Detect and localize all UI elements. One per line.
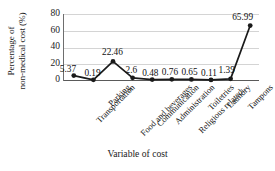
data-point-label: 2.6 bbox=[126, 66, 138, 75]
data-point-marker bbox=[130, 75, 135, 80]
data-point-label: 0.11 bbox=[201, 69, 217, 78]
data-point-label: 65.99 bbox=[232, 13, 253, 22]
data-point-marker bbox=[91, 77, 96, 82]
y-tick-label: 20 bbox=[38, 59, 60, 69]
y-tick-label: 60 bbox=[38, 26, 60, 36]
y-axis-title-line-2: non-medical cost (%) bbox=[17, 0, 28, 106]
chart-container: Percentage of non-medical cost (%) 80604… bbox=[0, 0, 275, 171]
y-axis-title: Percentage of non-medical cost (%) bbox=[6, 0, 32, 106]
data-point-label: 0.76 bbox=[162, 68, 178, 77]
y-tick-label: 80 bbox=[38, 9, 60, 19]
x-axis-title: Variable of cost bbox=[0, 148, 275, 159]
y-tick-label: 40 bbox=[38, 42, 60, 52]
data-point-label: 0.65 bbox=[181, 68, 197, 77]
y-axis-ticks: 806040200 bbox=[38, 0, 60, 171]
data-point-marker bbox=[189, 77, 194, 82]
y-tick-label: 0 bbox=[38, 75, 60, 85]
data-point-marker bbox=[228, 76, 233, 81]
data-point-label: 0.19 bbox=[84, 69, 100, 78]
data-point-marker bbox=[71, 73, 76, 78]
data-point-label: 22.46 bbox=[102, 48, 123, 57]
data-point-marker bbox=[150, 77, 155, 82]
y-axis-title-line-1: Percentage of bbox=[6, 0, 17, 106]
data-point-marker bbox=[248, 23, 253, 28]
data-point-label: 1.39 bbox=[219, 66, 235, 75]
data-point-label: 0.48 bbox=[142, 69, 158, 78]
data-point-label: 5.37 bbox=[60, 65, 76, 74]
data-point-marker bbox=[169, 77, 174, 82]
data-point-marker bbox=[111, 59, 116, 64]
